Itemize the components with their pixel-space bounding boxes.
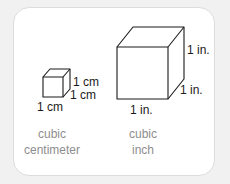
caption-line: cubic: [17, 126, 87, 142]
caption-line: cubic: [118, 126, 168, 142]
cm-depth-label: 1 cm: [70, 89, 96, 101]
cubic-centimeter-caption: cubic centimeter: [17, 126, 87, 158]
in-depth-label: 1 in.: [180, 84, 203, 96]
cm-width-label: 1 cm: [37, 101, 63, 113]
cm-height-label: 1 cm: [73, 76, 99, 88]
caption-line: inch: [118, 142, 168, 158]
cubic-inch-caption: cubic inch: [118, 126, 168, 158]
cubic-inch-cube: [117, 27, 184, 99]
in-height-label: 1 in.: [187, 44, 210, 56]
cubic-centimeter-cube: [43, 69, 70, 97]
in-width-label: 1 in.: [130, 104, 153, 116]
caption-line: centimeter: [17, 142, 87, 158]
